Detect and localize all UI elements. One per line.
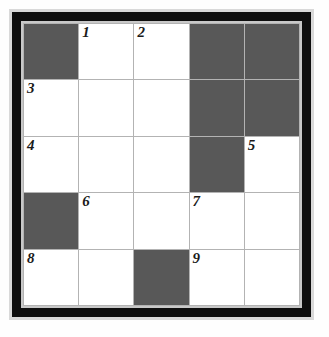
cell-number: 8 — [27, 250, 35, 267]
letter-cell[interactable]: 8 — [24, 250, 78, 305]
letter-cell[interactable]: 3 — [24, 80, 78, 135]
blocked-cell — [24, 24, 78, 79]
letter-cell[interactable] — [134, 80, 188, 135]
crossword-puzzle: 123456789 — [0, 0, 329, 337]
blocked-cell — [24, 193, 78, 248]
cell-number: 7 — [193, 193, 201, 210]
blocked-cell — [134, 250, 188, 305]
letter-cell[interactable]: 2 — [134, 24, 188, 79]
blocked-cell — [190, 24, 244, 79]
letter-cell[interactable]: 5 — [245, 137, 299, 192]
letter-cell[interactable] — [79, 250, 133, 305]
cell-number: 3 — [27, 80, 35, 97]
cell-number: 5 — [248, 137, 256, 154]
crossword-grid: 123456789 — [23, 23, 300, 306]
blocked-cell — [190, 137, 244, 192]
letter-cell[interactable] — [245, 250, 299, 305]
cell-number: 9 — [193, 250, 201, 267]
letter-cell[interactable] — [245, 193, 299, 248]
blocked-cell — [190, 80, 244, 135]
letter-cell[interactable]: 4 — [24, 137, 78, 192]
letter-cell[interactable] — [134, 137, 188, 192]
cell-number: 6 — [82, 193, 90, 210]
letter-cell[interactable] — [79, 137, 133, 192]
letter-cell[interactable]: 1 — [79, 24, 133, 79]
letter-cell[interactable] — [79, 80, 133, 135]
letter-cell[interactable]: 9 — [190, 250, 244, 305]
blocked-cell — [245, 24, 299, 79]
letter-cell[interactable] — [134, 193, 188, 248]
letter-cell[interactable]: 7 — [190, 193, 244, 248]
cell-number: 2 — [137, 24, 145, 41]
cell-number: 1 — [82, 24, 90, 41]
blocked-cell — [245, 80, 299, 135]
letter-cell[interactable]: 6 — [79, 193, 133, 248]
cell-number: 4 — [27, 137, 35, 154]
